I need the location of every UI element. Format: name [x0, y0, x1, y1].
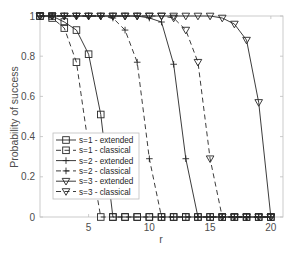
x-tick-label: 5 [86, 222, 92, 233]
triangle-down-marker [194, 13, 202, 20]
y-tick-label: 0.6 [21, 91, 35, 102]
plus-marker [207, 214, 214, 221]
x-tick-label: 15 [205, 222, 217, 233]
plus-marker [134, 59, 141, 66]
x-axis-label: r [159, 233, 163, 245]
axes: 00.20.40.60.815101520 [21, 11, 283, 234]
plus-marker [170, 61, 177, 68]
y-axis-label: Probability of success [8, 66, 20, 168]
plus-marker [146, 155, 153, 162]
plus-marker [158, 214, 165, 221]
y-tick-label: 0 [29, 212, 35, 223]
legend-label: s=3 - extended [79, 177, 134, 186]
legend-label: s=2 - classical [79, 167, 131, 176]
legend-label: s=3 - classical [79, 188, 131, 197]
triangle-down-marker [182, 13, 190, 20]
y-tick-label: 0.4 [21, 131, 35, 142]
plus-marker [195, 214, 202, 221]
legend-label: s=1 - classical [79, 146, 131, 155]
plus-marker [170, 214, 177, 221]
y-tick-label: 0.2 [21, 171, 35, 182]
line-chart: 00.20.40.60.815101520 s=1 - extendeds=1 … [0, 0, 298, 257]
plus-marker [183, 214, 190, 221]
triangle-down-marker [182, 27, 190, 34]
y-tick-label: 0.8 [21, 51, 35, 62]
x-tick-label: 20 [265, 222, 277, 233]
legend: s=1 - extendeds=1 - classicals=2 - exten… [53, 133, 139, 199]
legend-label: s=2 - extended [79, 157, 134, 166]
plus-marker [183, 155, 190, 162]
legend-label: s=1 - extended [79, 136, 134, 145]
y-tick-label: 1 [29, 11, 35, 22]
x-tick-label: 10 [144, 222, 156, 233]
